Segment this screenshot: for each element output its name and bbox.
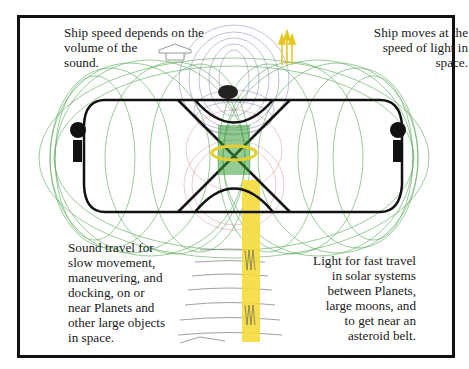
dome-icon (218, 85, 238, 99)
annotation-light-travel: Light for fast travel in solar systems b… (260, 253, 416, 343)
annotation-ship-speed-sound: Ship speed depends on the volume of the … (64, 25, 204, 70)
light-beam (242, 180, 260, 342)
annotation-sound-travel: Sound travel for slow movement, maneuver… (68, 240, 165, 345)
annotation-speed-of-light: Ship moves at the speed of light in spac… (300, 25, 468, 70)
core (218, 125, 250, 175)
speaker-right-icon (390, 122, 406, 162)
light-arrows-icon (279, 31, 295, 65)
